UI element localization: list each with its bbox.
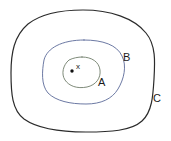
nested-curves-diagram: A B C x xyxy=(0,0,171,141)
point-label-x: x xyxy=(76,63,80,71)
region-label-c: C xyxy=(153,93,161,104)
region-label-b: B xyxy=(123,52,130,63)
diagram-canvas xyxy=(0,0,171,141)
curve-b-middle xyxy=(43,40,125,104)
point-x-marker xyxy=(70,69,73,72)
curve-a-innermost xyxy=(63,57,100,88)
curve-c-outermost xyxy=(11,10,155,132)
region-label-a: A xyxy=(98,77,105,88)
